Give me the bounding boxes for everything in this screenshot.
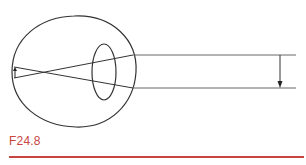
lens bbox=[92, 44, 116, 100]
eye-optics-diagram bbox=[0, 0, 306, 135]
caption-rule bbox=[9, 156, 304, 158]
eyeball-outline bbox=[12, 16, 136, 127]
ray-lower-refracted bbox=[14, 67, 133, 88]
figure-label: F24.8 bbox=[9, 134, 41, 148]
object-arrow-head-icon bbox=[278, 81, 283, 88]
ray-upper-refracted bbox=[14, 55, 133, 78]
